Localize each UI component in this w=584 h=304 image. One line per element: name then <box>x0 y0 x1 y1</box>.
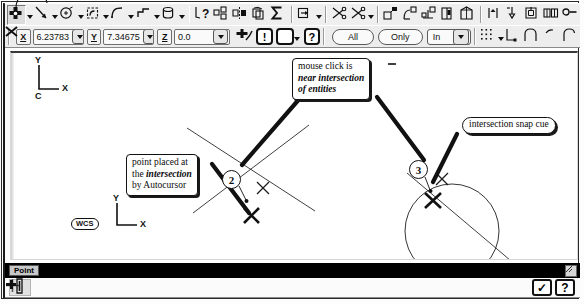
arc-center-icon <box>59 6 74 20</box>
construction-plane-gnomon-lines <box>39 65 59 89</box>
select-group-sep <box>323 28 325 45</box>
toolbar-separator-2 <box>291 6 293 23</box>
callout-point-placed: point placed at the intersection by Auto… <box>126 154 198 196</box>
x-coordinate-dropdown-icon[interactable] <box>72 29 84 44</box>
solid-sweep-button[interactable] <box>420 5 439 24</box>
wcs-x-label: X <box>140 219 146 229</box>
rectangle-shape-icon <box>136 6 152 20</box>
machine-chain-button[interactable] <box>561 5 580 24</box>
xform-translate-button[interactable] <box>212 5 231 24</box>
x-coordinate-value: 6.23783 <box>34 32 73 42</box>
rectangle-tool-button[interactable] <box>135 5 154 24</box>
drafting-tool-button[interactable] <box>296 5 315 24</box>
question-icon: ? <box>561 281 568 295</box>
point-entry-button[interactable] <box>41 279 63 296</box>
drill-toolpath-icon <box>505 6 519 20</box>
selection-mask-dropdown-icon[interactable] <box>453 29 469 45</box>
checkmark-icon: ✓ <box>537 281 547 295</box>
step-marker-3: 3 <box>409 160 428 179</box>
status-prompt: Point <box>9 265 39 276</box>
z-coordinate-dropdown-icon[interactable] <box>213 29 228 44</box>
arc-snap-button[interactable] <box>523 27 542 46</box>
cylinder-tool-dropdown[interactable] <box>179 6 185 23</box>
callout-snap-cue: intersection snap cue <box>462 117 556 134</box>
endpoint-snap-icon <box>505 28 518 42</box>
graphics-canvas[interactable]: Y X C Y X WCS 2 3 mouse click is near in… <box>10 51 578 260</box>
crosshair-x-icon <box>5 26 18 37</box>
autocursor-gnomon-button[interactable] <box>234 27 253 46</box>
help-button[interactable]: ? <box>304 28 321 45</box>
grid-snap-button[interactable] <box>479 27 498 46</box>
chain-link-icon <box>562 6 578 18</box>
xform-mirror-button[interactable] <box>231 5 250 24</box>
y-coordinate-label[interactable]: Y <box>87 29 102 45</box>
resize-grip-glyph <box>566 266 573 273</box>
y-coordinate-value: 7.34675 <box>104 32 143 42</box>
machine-drill-button[interactable] <box>504 5 523 24</box>
callout-point-placed-line1: point placed at <box>132 157 192 169</box>
analyze-tool-button[interactable]: ? <box>193 5 212 24</box>
machine-contour-button[interactable] <box>485 5 504 24</box>
trim-one-button[interactable] <box>330 5 349 24</box>
machine-surface-button[interactable] <box>542 5 561 24</box>
svg-text:?: ? <box>202 7 209 20</box>
wcs-chip[interactable]: WCS <box>71 218 99 230</box>
x-coordinate-field[interactable]: 6.23783 <box>33 29 84 45</box>
callout-mouse-click-line2: near intersection <box>298 73 364 83</box>
tangent-snap-icon <box>543 28 556 42</box>
marker-3-leader <box>425 177 433 193</box>
select-all-button[interactable]: All <box>332 29 374 45</box>
cplane-plane-label: C <box>35 91 42 101</box>
resize-grip-icon[interactable] <box>565 265 577 277</box>
cplane-x-label: X <box>62 83 68 93</box>
z-coordinate-label[interactable]: Z <box>157 29 172 45</box>
crosshair-dropdown[interactable] <box>294 28 300 45</box>
trim-two-button[interactable] <box>349 5 368 24</box>
tangent-snap-button[interactable] <box>542 27 561 46</box>
quadrant-snap-button[interactable] <box>561 27 580 46</box>
solid-revolve-button[interactable] <box>401 5 420 24</box>
callout-point-placed-emph: intersection <box>146 169 192 179</box>
callout-mouse-click-line3: of entities <box>298 84 336 94</box>
z-coordinate-field[interactable]: 0.0 <box>174 29 230 45</box>
wcs-gnomon-lines <box>117 203 137 225</box>
toolbar-separator <box>189 6 191 23</box>
fillet-tool-button[interactable] <box>84 5 103 24</box>
xform-rotate-button[interactable] <box>250 5 269 24</box>
selection-mask-select[interactable]: In <box>427 29 471 45</box>
x-coordinate-label[interactable]: X <box>16 29 31 45</box>
spline-tool-button[interactable] <box>109 5 128 24</box>
cylinder-tool-button[interactable] <box>160 5 179 24</box>
autocursor-settings-button[interactable]: ! <box>256 28 273 45</box>
arc-tool-button[interactable] <box>58 5 77 24</box>
ok-button[interactable]: ✓ <box>532 279 552 296</box>
solid-extrude-button[interactable] <box>382 5 401 24</box>
endpoint-snap-button[interactable] <box>504 27 523 46</box>
leader-callout-to-marker-2 <box>242 97 301 165</box>
revolve-icon <box>402 6 418 21</box>
trim-two-dropdown[interactable] <box>368 6 374 23</box>
fillet-box-icon <box>85 6 100 20</box>
callout-mouse-click-line1: mouse click is <box>298 61 364 73</box>
surface-toolpath-icon <box>543 6 559 20</box>
y-coordinate-field[interactable]: 7.34675 <box>103 29 154 45</box>
exclamation-icon: ! <box>263 31 267 43</box>
cylinder-icon <box>161 6 175 20</box>
solid-loft-button[interactable] <box>439 5 458 24</box>
wcs-y-label: Y <box>113 193 119 203</box>
bottom-toolbar-actions: ✓ ? <box>529 279 580 296</box>
question-icon: ? <box>308 31 315 43</box>
machine-pocket-button[interactable] <box>523 5 542 24</box>
solid-shell-button[interactable] <box>458 5 477 24</box>
sigma-icon <box>270 6 284 20</box>
drafting-tool-dropdown[interactable] <box>315 6 321 23</box>
bottom-toolbar: ✓ ? <box>5 278 580 298</box>
y-coordinate-dropdown-icon[interactable] <box>143 29 155 44</box>
gnomon-snap-icon <box>235 28 253 43</box>
pocket-toolpath-icon <box>524 6 538 20</box>
autocursor-crosshair-button[interactable] <box>276 28 294 45</box>
select-only-button[interactable]: Only <box>378 29 423 45</box>
sum-tool-button[interactable] <box>269 5 288 24</box>
bottom-help-button[interactable]: ? <box>555 279 575 296</box>
mirror-icon <box>232 6 247 20</box>
